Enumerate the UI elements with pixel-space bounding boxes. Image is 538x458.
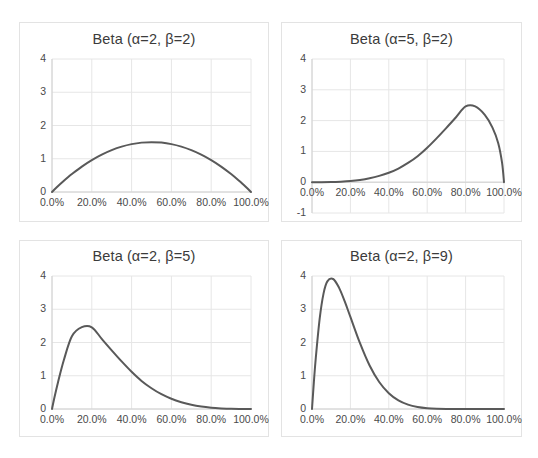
y-tick-label: -1: [286, 206, 306, 218]
y-tick-label: 2: [26, 336, 46, 348]
y-tick-label: 4: [26, 52, 46, 64]
data-series-line: [312, 105, 504, 182]
panel-beta-2-9[interactable]: Beta (α=2, β=9)012340.0%20.0%40.0%60.0%8…: [281, 240, 522, 437]
y-tick-label: 1: [26, 152, 46, 164]
y-tick-label: 4: [286, 269, 306, 281]
x-tick-label: 100.0%: [226, 413, 276, 425]
y-tick-label: 3: [286, 302, 306, 314]
data-series-line: [312, 279, 504, 409]
y-tick-label: 2: [26, 119, 46, 131]
y-tick-label: 1: [26, 369, 46, 381]
y-tick-label: 4: [26, 269, 46, 281]
y-tick-label: 2: [286, 336, 306, 348]
y-tick-label: 3: [26, 85, 46, 97]
y-tick-label: 1: [286, 144, 306, 156]
chart-grid: Beta (α=2, β=2)012340.0%20.0%40.0%60.0%8…: [0, 0, 538, 458]
y-tick-label: 1: [286, 369, 306, 381]
plot-area: [282, 241, 523, 438]
x-tick-label: 100.0%: [479, 413, 529, 425]
plot-area: [20, 241, 270, 438]
data-series-line: [52, 326, 251, 409]
panel-beta-2-2[interactable]: Beta (α=2, β=2)012340.0%20.0%40.0%60.0%8…: [19, 22, 269, 222]
plot-area: [20, 23, 270, 223]
panel-beta-2-5[interactable]: Beta (α=2, β=5)012340.0%20.0%40.0%60.0%8…: [19, 240, 269, 437]
panel-beta-5-2[interactable]: Beta (α=5, β=2)-1012340.0%20.0%40.0%60.0…: [281, 22, 522, 222]
y-tick-label: 3: [286, 83, 306, 95]
data-series-line: [52, 142, 251, 192]
y-tick-label: 2: [286, 114, 306, 126]
x-tick-label: 100.0%: [479, 186, 529, 198]
x-tick-label: 100.0%: [226, 196, 276, 208]
y-tick-label: 3: [26, 302, 46, 314]
y-tick-label: 4: [286, 52, 306, 64]
